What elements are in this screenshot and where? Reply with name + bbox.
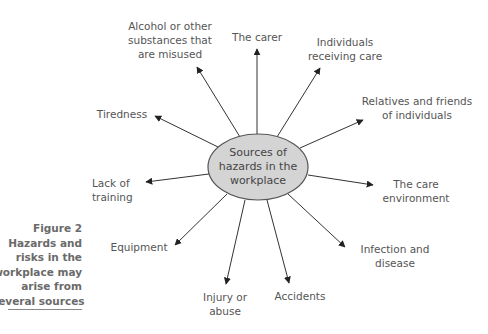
label-line: of individuals bbox=[352, 108, 482, 122]
caption-line: Hazards and bbox=[0, 236, 82, 251]
label-equipment: Equipment bbox=[105, 240, 173, 254]
caption-line: several sources bbox=[0, 294, 82, 309]
label-line: Injury or bbox=[195, 290, 255, 304]
label-individuals: Individuals receiving care bbox=[295, 35, 395, 63]
caption-line: risks in the bbox=[0, 250, 82, 265]
caption-line: workplace may bbox=[0, 265, 82, 280]
label-line: are misused bbox=[120, 47, 220, 61]
label-injury: Injury or abuse bbox=[195, 290, 255, 318]
label-line: disease bbox=[350, 256, 440, 270]
label-environment: The care environment bbox=[376, 177, 456, 205]
arrow-tiredness bbox=[155, 116, 218, 147]
label-line: substances that bbox=[120, 33, 220, 47]
label-line: Relatives and friends bbox=[352, 94, 482, 108]
arrow-alcohol bbox=[197, 67, 240, 137]
label-line: training bbox=[92, 190, 142, 204]
center-line: workplace bbox=[208, 174, 308, 188]
caption-figure-number: Figure 2 bbox=[0, 221, 82, 236]
label-line: Tiredness bbox=[92, 107, 152, 121]
label-line: receiving care bbox=[295, 49, 395, 63]
label-infection: Infection and disease bbox=[350, 242, 440, 270]
label-relatives: Relatives and friends of individuals bbox=[352, 94, 482, 122]
caption-line: arise from bbox=[0, 279, 82, 294]
label-line: Alcohol or other bbox=[120, 19, 220, 33]
arrow-equipment bbox=[175, 194, 227, 245]
center-line: hazards in the bbox=[208, 160, 308, 174]
label-line: Infection and bbox=[350, 242, 440, 256]
label-carer: The carer bbox=[222, 30, 292, 44]
arrow-training bbox=[146, 174, 209, 182]
label-accidents: Accidents bbox=[265, 289, 335, 303]
label-alcohol: Alcohol or other substances that are mis… bbox=[120, 19, 220, 61]
label-line: Equipment bbox=[105, 240, 173, 254]
label-line: Lack of bbox=[92, 176, 142, 190]
arrow-relatives bbox=[300, 120, 363, 148]
label-tiredness: Tiredness bbox=[92, 107, 152, 121]
label-training: Lack of training bbox=[92, 176, 142, 204]
label-line: The care bbox=[376, 177, 456, 191]
label-line: The carer bbox=[222, 30, 292, 44]
arrow-infection bbox=[288, 194, 345, 247]
figure-caption: Figure 2 Hazards and risks in the workpl… bbox=[0, 221, 82, 309]
arrow-individuals bbox=[277, 68, 320, 137]
label-line: environment bbox=[376, 191, 456, 205]
arrow-injury bbox=[226, 200, 245, 284]
center-line: Sources of bbox=[208, 146, 308, 160]
label-line: abuse bbox=[195, 304, 255, 318]
label-line: Individuals bbox=[295, 35, 395, 49]
label-line: Accidents bbox=[265, 289, 335, 303]
arrow-accidents bbox=[267, 200, 289, 283]
center-label: Sources of hazards in the workplace bbox=[208, 146, 308, 188]
caption-divider bbox=[8, 309, 82, 310]
arrow-environment bbox=[308, 175, 373, 185]
